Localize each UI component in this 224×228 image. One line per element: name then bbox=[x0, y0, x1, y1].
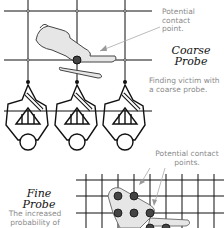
fine-caption: The increased probability of bbox=[2, 210, 68, 227]
title-line: Probe bbox=[158, 56, 224, 67]
coarse-callout: Potential contact point. bbox=[162, 8, 195, 34]
callout-line: points. bbox=[150, 159, 224, 168]
callout-line: point. bbox=[162, 25, 195, 34]
rescuers bbox=[6, 85, 145, 150]
fine-probe-title: Fine Probe bbox=[14, 188, 64, 210]
coarse-caption: Finding victim with a coarse probe. bbox=[149, 77, 220, 94]
coarse-probe-title: Coarse Probe bbox=[158, 45, 224, 67]
caption-line: probability of bbox=[2, 219, 68, 228]
fine-callout: Potential contact points. bbox=[150, 150, 224, 167]
caption-line: a coarse probe. bbox=[149, 86, 220, 95]
victim-figure-coarse bbox=[36, 24, 116, 78]
contact-point-coarse bbox=[73, 56, 81, 64]
